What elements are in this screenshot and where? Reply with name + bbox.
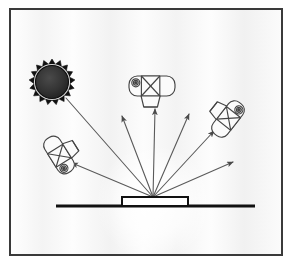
figure-root: [0, 0, 297, 271]
camera-lens: [141, 96, 160, 107]
diagram-canvas: [0, 0, 297, 271]
camera-viewfinder-ring: [237, 108, 240, 111]
camera-viewfinder-ring: [135, 82, 137, 84]
sun-disc-icon: [36, 66, 69, 99]
camera-viewfinder-ring: [62, 167, 65, 170]
sample-slab: [122, 197, 188, 206]
